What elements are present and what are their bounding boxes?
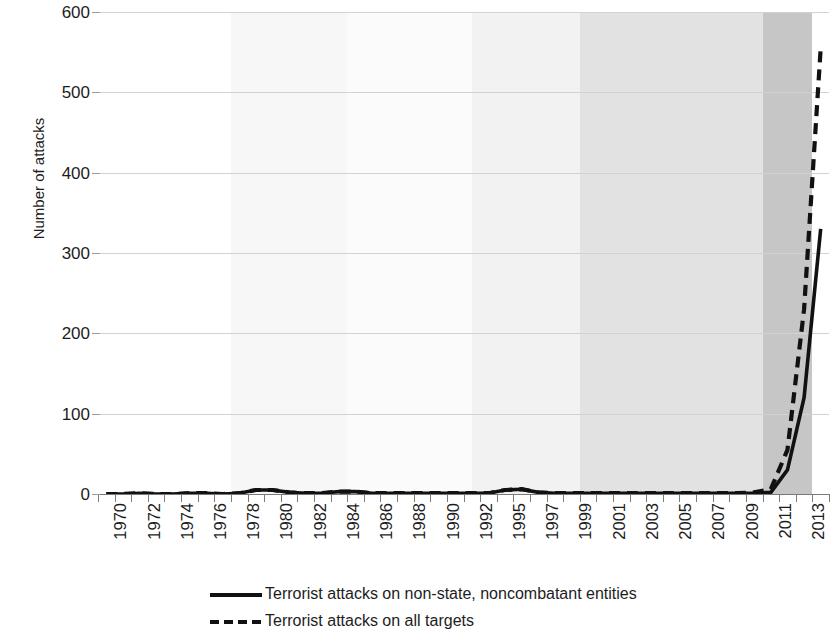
x-tick-label: 1984 xyxy=(345,503,362,540)
y-tick-mark xyxy=(92,92,100,93)
x-tick-label: 1976 xyxy=(212,503,229,540)
x-tick-mark xyxy=(613,495,614,502)
x-tick-mark xyxy=(596,495,597,502)
x-tick-label: 1978 xyxy=(245,503,262,540)
x-tick-label: 1992 xyxy=(478,503,495,540)
x-tick-mark xyxy=(214,495,215,502)
x-tick-label: 1995 xyxy=(511,503,528,540)
x-tick-mark xyxy=(164,495,165,502)
x-tick-mark xyxy=(746,495,747,502)
x-tick-mark xyxy=(580,495,581,502)
y-tick-mark xyxy=(92,414,100,415)
x-tick-mark xyxy=(713,495,714,502)
x-tick-mark xyxy=(414,495,415,502)
x-tick-mark xyxy=(347,495,348,502)
x-tick-label: 1999 xyxy=(577,503,594,540)
x-tick-mark xyxy=(297,495,298,502)
y-tick-mark xyxy=(92,253,100,254)
x-tick-mark xyxy=(729,495,730,502)
x-tick-mark xyxy=(131,495,132,502)
x-tick-label: 2011 xyxy=(777,503,794,538)
y-tick-label: 200 xyxy=(44,325,90,342)
x-tick-mark xyxy=(447,495,448,502)
x-tick-mark xyxy=(497,495,498,502)
x-tick-mark xyxy=(779,495,780,502)
x-tick-label: 1980 xyxy=(278,503,295,540)
x-tick-mark xyxy=(763,495,764,502)
x-tick-mark xyxy=(181,495,182,502)
x-tick-mark xyxy=(464,495,465,502)
x-tick-mark xyxy=(663,495,664,502)
x-tick-label: 1997 xyxy=(544,503,561,540)
chart-legend: Terrorist attacks on non-state, noncomba… xyxy=(0,580,835,634)
x-tick-mark xyxy=(646,495,647,502)
x-tick-label: 2005 xyxy=(677,503,694,540)
x-tick-mark xyxy=(812,495,813,502)
x-tick-label: 2003 xyxy=(644,503,661,540)
x-tick-mark xyxy=(331,495,332,502)
x-axis-tick-labels: 1970197219741976197819801982198419861988… xyxy=(98,503,835,573)
x-tick-label: 1988 xyxy=(411,503,428,540)
y-tick-mark xyxy=(92,333,100,334)
legend-key-solid-icon xyxy=(210,587,262,601)
x-tick-mark xyxy=(231,495,232,502)
x-tick-label: 1972 xyxy=(146,503,163,540)
y-tick-label: 400 xyxy=(44,164,90,181)
x-tick-mark xyxy=(98,495,99,502)
x-tick-mark xyxy=(513,495,514,502)
y-axis-tick-labels: 0100200300400500600 xyxy=(38,0,90,520)
legend-key-dashed-icon xyxy=(210,614,262,628)
legend-label: Terrorist attacks on all targets xyxy=(265,612,474,630)
series-lines xyxy=(98,12,829,494)
y-tick-mark xyxy=(92,173,100,174)
x-tick-mark xyxy=(480,495,481,502)
x-tick-mark xyxy=(264,495,265,502)
x-tick-label: 1990 xyxy=(445,503,462,540)
x-tick-mark xyxy=(364,495,365,502)
x-tick-mark xyxy=(796,495,797,502)
x-tick-mark xyxy=(563,495,564,502)
plot-area xyxy=(98,12,829,494)
legend-label: Terrorist attacks on non-state, noncomba… xyxy=(265,585,637,603)
x-tick-mark xyxy=(281,495,282,502)
x-tick-mark xyxy=(397,495,398,502)
x-tick-mark xyxy=(696,495,697,502)
x-tick-label: 2001 xyxy=(611,503,628,540)
x-tick-label: 1970 xyxy=(112,503,129,540)
legend-item: Terrorist attacks on non-state, noncomba… xyxy=(0,580,835,607)
y-tick-label: 600 xyxy=(44,4,90,21)
x-tick-label: 2013 xyxy=(810,503,827,540)
x-tick-mark xyxy=(829,495,830,502)
x-tick-mark xyxy=(380,495,381,502)
y-tick-mark xyxy=(92,12,100,13)
x-tick-mark xyxy=(115,495,116,502)
y-tick-label: 0 xyxy=(44,486,90,503)
series-line-1 xyxy=(106,229,820,494)
x-tick-mark xyxy=(148,495,149,502)
x-tick-label: 1982 xyxy=(312,503,329,540)
x-tick-mark xyxy=(547,495,548,502)
x-tick-mark xyxy=(530,495,531,502)
x-tick-mark xyxy=(248,495,249,502)
x-tick-label: 2009 xyxy=(744,503,761,540)
chart-figure: Number of attacks 0100200300400500600 19… xyxy=(0,0,835,643)
y-tick-label: 100 xyxy=(44,405,90,422)
y-tick-label: 300 xyxy=(44,245,90,262)
x-tick-label: 1986 xyxy=(378,503,395,540)
x-tick-mark xyxy=(679,495,680,502)
series-line-2 xyxy=(106,48,820,494)
legend-item: Terrorist attacks on all targets xyxy=(0,607,835,634)
x-tick-mark xyxy=(314,495,315,502)
y-tick-label: 500 xyxy=(44,84,90,101)
x-tick-mark xyxy=(630,495,631,502)
x-tick-label: 2007 xyxy=(710,503,727,540)
x-tick-mark xyxy=(198,495,199,502)
x-tick-label: 1974 xyxy=(179,503,196,540)
x-tick-mark xyxy=(430,495,431,502)
